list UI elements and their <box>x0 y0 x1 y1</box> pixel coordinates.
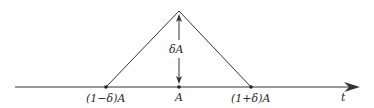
point-left <box>104 85 108 89</box>
point-label-right: (1+δ)A <box>231 93 270 104</box>
point-label-left: (1−δ)A <box>86 93 125 104</box>
triangle-pulse-diagram: δA (1−δ)A A (1+δ)A t <box>0 0 374 108</box>
axis-label-t: t <box>341 92 345 103</box>
point-center <box>177 85 181 89</box>
point-label-center: A <box>175 92 183 103</box>
point-right <box>249 85 253 89</box>
diagram-canvas <box>0 0 374 108</box>
height-label: δA <box>169 44 184 55</box>
